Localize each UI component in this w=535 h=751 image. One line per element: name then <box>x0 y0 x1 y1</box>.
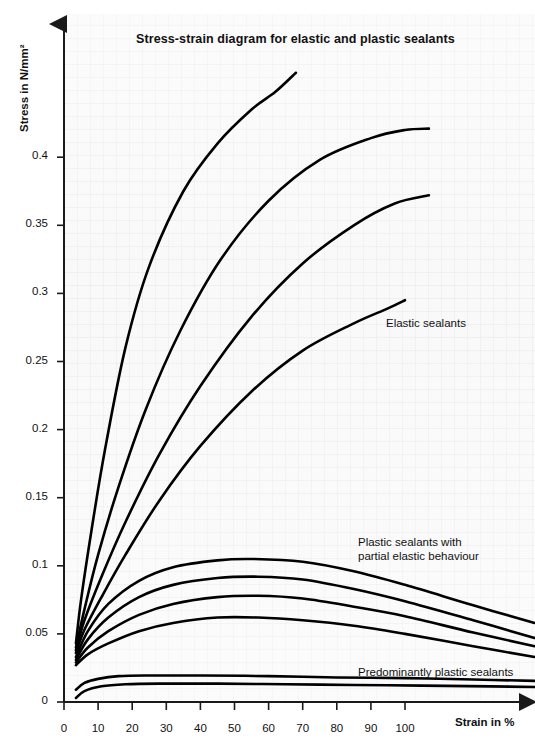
curve-plastic-elastic-sealant-2 <box>76 577 535 660</box>
x-axis-title: Strain in % <box>455 716 514 728</box>
y-tick-label: 0.35 <box>6 217 48 229</box>
stress-strain-figure: Stress-strain diagram for elastic and pl… <box>0 0 535 751</box>
curve-predominantly-plastic-sealant-2 <box>76 684 535 698</box>
y-tick-label: 0.3 <box>6 285 48 297</box>
x-axis <box>64 702 522 710</box>
y-tick-label: 0.4 <box>6 149 48 161</box>
curve-elastic-sealant-3 <box>76 195 429 650</box>
annotation-label: Elastic sealants <box>386 316 466 330</box>
y-tick-label: 0.05 <box>6 626 48 638</box>
data-curves <box>76 73 535 698</box>
annotation-label: partial elastic behaviour <box>358 549 479 563</box>
chart-title: Stress-strain diagram for elastic and pl… <box>136 32 455 46</box>
y-axis <box>57 24 64 702</box>
y-tick-label: 0.25 <box>6 354 48 366</box>
curve-plastic-elastic-sealant-1 <box>76 559 535 657</box>
x-tick-label: 100 <box>385 722 425 734</box>
y-tick-label: 0 <box>6 694 48 706</box>
y-tick-label: 0.2 <box>6 422 48 434</box>
curve-elastic-sealant-2 <box>76 129 429 648</box>
y-tick-label: 0.1 <box>6 558 48 570</box>
annotation-label: Predominantly plastic sealants <box>358 665 513 679</box>
annotation-label: Plastic sealants with <box>358 535 462 549</box>
chart-canvas <box>0 0 535 751</box>
y-axis-title: Stress in N/mm² <box>18 44 30 132</box>
curve-plastic-elastic-sealant-4 <box>76 617 535 665</box>
y-tick-label: 0.15 <box>6 490 48 502</box>
